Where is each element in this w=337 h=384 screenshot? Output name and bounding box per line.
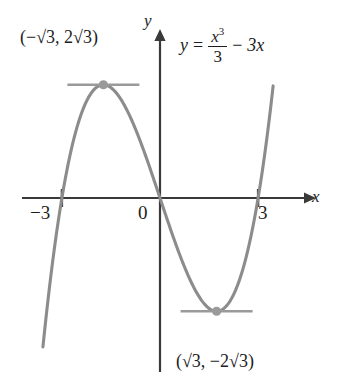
origin-label: 0 <box>138 203 148 222</box>
x-axis-label: x <box>312 188 320 205</box>
equation-trailing-term: 3x <box>247 36 264 54</box>
equation-label: y = x3 3 − 3x <box>180 26 264 65</box>
y-axis-label: y <box>144 12 152 29</box>
fraction-numerator: x3 <box>208 26 227 46</box>
cubic-graph-plot <box>0 0 337 384</box>
x-tick-label-negative-three: −3 <box>30 203 50 222</box>
equation-minus-sign: − <box>232 36 242 54</box>
x-tick-label-three: 3 <box>258 203 268 222</box>
figure-canvas: y x −3 3 0 (−√3, 2√3) (√3, −2√3) y = x3 … <box>0 0 337 384</box>
fraction-denominator: 3 <box>210 47 225 65</box>
local-max-annotation: (−√3, 2√3) <box>20 28 98 46</box>
cubic-curve-main <box>43 85 273 347</box>
equation-lhs: y <box>180 36 188 54</box>
y-axis-arrowhead <box>154 29 165 41</box>
equation-equals: = <box>193 36 203 54</box>
local-min-point <box>212 307 221 316</box>
local-max-point <box>99 80 108 89</box>
equation-fraction: x3 3 <box>208 26 227 65</box>
local-min-annotation: (√3, −2√3) <box>176 352 254 370</box>
